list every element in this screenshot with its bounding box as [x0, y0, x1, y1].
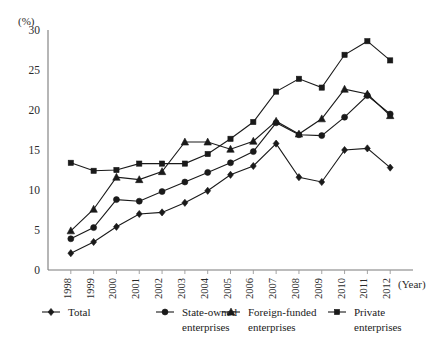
- y-tick-label: 10: [29, 184, 41, 196]
- data-point-marker-circle: [205, 169, 211, 175]
- data-point-marker-square: [274, 89, 279, 94]
- legend-label: Total: [68, 306, 90, 318]
- data-point-marker-diamond: [48, 308, 54, 315]
- data-point-marker-square: [319, 85, 324, 90]
- data-point-marker-circle: [182, 179, 188, 185]
- chart-canvas: 051015202530 199819992000200120022003200…: [0, 0, 437, 345]
- data-point-marker-circle: [319, 133, 325, 139]
- legend-label-line2: enterprises: [182, 321, 230, 333]
- data-point-marker-triangle: [113, 173, 120, 180]
- x-tick-label: 2003: [176, 278, 187, 299]
- series-layer: [67, 39, 394, 257]
- data-point-marker-circle: [113, 197, 119, 203]
- y-tick-label: 20: [29, 104, 41, 116]
- y-tick-label: 15: [29, 144, 41, 156]
- legend-label: Foreign-funded: [248, 306, 317, 318]
- data-point-marker-diamond: [387, 164, 393, 171]
- x-axis-unit-label: (Year): [398, 278, 426, 291]
- y-axis-unit-label: (%): [18, 15, 35, 28]
- x-tick-label: 2007: [267, 278, 278, 299]
- x-tick-label: 2011: [358, 278, 369, 299]
- data-point-marker-diamond: [205, 187, 211, 194]
- x-tick-label: 1998: [62, 278, 73, 299]
- x-tick-label: 2005: [222, 278, 233, 299]
- x-tick-label: 2008: [290, 278, 301, 299]
- data-point-marker-square: [296, 76, 301, 81]
- x-axis: 1998199920002001200220032004200520062007…: [48, 270, 413, 299]
- data-point-marker-square: [228, 136, 233, 141]
- y-tick-label: 25: [29, 64, 41, 76]
- data-point-marker-square: [159, 161, 164, 166]
- x-tick-label: 2002: [153, 278, 164, 299]
- data-point-marker-circle: [91, 225, 97, 231]
- data-point-marker-triangle: [341, 85, 348, 92]
- data-point-marker-square: [388, 58, 393, 63]
- x-tick-label: 2009: [313, 278, 324, 299]
- data-point-marker-diamond: [228, 171, 234, 178]
- data-point-marker-diamond: [364, 145, 370, 152]
- data-point-marker-circle: [250, 149, 256, 155]
- data-point-marker-square: [137, 161, 142, 166]
- x-tick-label: 2000: [107, 278, 118, 299]
- data-point-marker-diamond: [159, 209, 165, 216]
- data-point-marker-circle: [342, 114, 348, 120]
- legend-item-total[interactable]: Total: [42, 306, 90, 318]
- x-tick-label: 1999: [85, 278, 96, 299]
- data-point-marker-square: [334, 309, 339, 314]
- line-chart: 051015202530 199819992000200120022003200…: [0, 0, 437, 345]
- data-point-marker-circle: [68, 236, 74, 242]
- data-point-marker-square: [91, 168, 96, 173]
- data-point-marker-diamond: [136, 210, 142, 217]
- y-axis: 051015202530: [29, 24, 49, 276]
- y-tick-label: 5: [34, 224, 40, 236]
- legend-label-line2: enterprises: [248, 321, 296, 333]
- data-point-marker-diamond: [113, 223, 119, 230]
- legend-label-line2: enterprises: [354, 321, 402, 333]
- data-point-marker-square: [342, 52, 347, 57]
- x-tick-label: 2006: [244, 278, 255, 299]
- x-tick-label: 2004: [199, 277, 210, 299]
- data-point-marker-square: [114, 167, 119, 172]
- data-point-marker-circle: [228, 160, 234, 166]
- data-point-marker-diamond: [91, 238, 97, 245]
- x-tick-label: 2001: [130, 278, 141, 299]
- legend-label: Private: [354, 306, 385, 318]
- x-tick-label: 2010: [336, 278, 347, 299]
- legend-item-state-owned[interactable]: State-ownedenterprises: [156, 306, 237, 333]
- x-tick-label: 2012: [381, 278, 392, 299]
- data-point-marker-diamond: [68, 250, 74, 257]
- data-point-marker-square: [182, 161, 187, 166]
- data-point-marker-square: [251, 119, 256, 124]
- data-point-marker-square: [68, 160, 73, 165]
- chart-legend: TotalState-ownedenterprisesForeign-funde…: [42, 306, 402, 333]
- legend-item-private[interactable]: Privateenterprises: [328, 306, 402, 333]
- data-point-marker-square: [205, 151, 210, 156]
- data-point-marker-circle: [159, 189, 165, 195]
- data-point-marker-circle: [136, 198, 142, 204]
- data-point-marker-circle: [162, 309, 168, 315]
- data-point-marker-square: [365, 39, 370, 44]
- data-point-marker-diamond: [182, 199, 188, 206]
- y-tick-label: 0: [34, 264, 40, 276]
